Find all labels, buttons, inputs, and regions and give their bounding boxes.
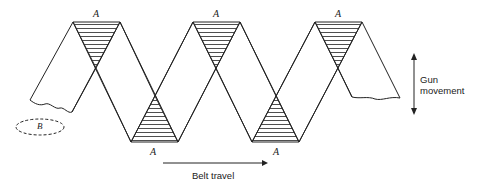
overlap-bottom-1 (131, 96, 178, 142)
gun-movement-label-1: Gun (420, 74, 438, 85)
label-a-bottom-1: A (150, 146, 156, 157)
overlap-top-1 (73, 22, 120, 68)
gun-arrow-head-down (411, 108, 417, 115)
label-b: B (37, 121, 43, 131)
overlap-bottom-2 (252, 96, 299, 142)
overlap-top-2 (193, 22, 240, 68)
belt-arrow-head (262, 160, 268, 166)
gun-arrow-head-up (411, 53, 417, 60)
belt-travel-label: Belt travel (192, 170, 234, 181)
gun-movement-label-2: movement (420, 85, 464, 96)
label-a-top-1: A (93, 8, 99, 19)
diagram-canvas: A A A A A B Belt travel Gun movement (0, 0, 479, 183)
zigzag-drawing (0, 0, 479, 183)
label-a-top-3: A (335, 8, 341, 19)
label-a-top-2: A (213, 8, 219, 19)
overlap-top-3 (315, 22, 362, 68)
label-a-bottom-2: A (273, 146, 279, 157)
